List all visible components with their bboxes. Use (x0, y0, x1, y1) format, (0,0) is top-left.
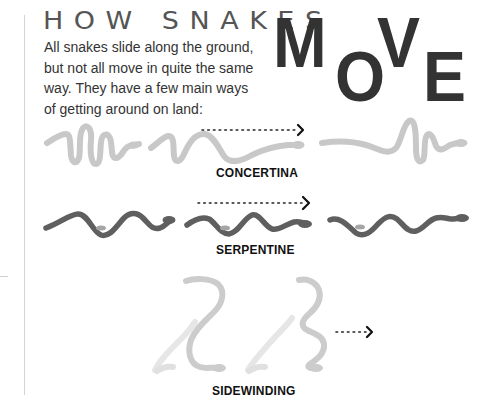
sidewinding-snake-2-head-icon (309, 364, 323, 372)
serpentine-snake-2-icon (187, 215, 307, 234)
serpentine-snake-3-icon (330, 217, 462, 235)
sidewinding-snake-2-icon (299, 279, 324, 368)
serpentine-snake-3-head-icon (455, 214, 469, 222)
serpentine-ground-mark-icon (355, 225, 365, 230)
serpentine-snake-1-head-icon (163, 216, 176, 224)
serpentine-dotted-arrow-icon (198, 197, 309, 209)
concertina-dotted-arrow-icon (202, 125, 303, 135)
serpentine-illustration (46, 214, 469, 236)
concertina-snake-2-icon (151, 134, 300, 161)
sidewinding-dotted-arrow-icon (336, 327, 372, 337)
concertina-snake-3-head-icon (455, 139, 468, 147)
serpentine-snake-2-head-icon (298, 220, 312, 228)
serpentine-ground-mark-icon (96, 226, 106, 231)
concertina-snake-3-icon (322, 121, 462, 162)
serpentine-snake-1-icon (46, 214, 172, 236)
snake-illustrations (0, 0, 491, 395)
concertina-illustration (47, 121, 468, 164)
label-serpentine: SERPENTINE (216, 243, 295, 257)
sidewinding-snake-1-head-icon (212, 364, 226, 372)
sidewinding-track-2-icon (248, 318, 292, 370)
serpentine-ground-mark-icon (220, 226, 230, 231)
label-concertina: CONCERTINA (216, 166, 298, 180)
concertina-snake-1-icon (47, 126, 139, 164)
concertina-snake-2-head-icon (292, 141, 305, 149)
sidewinding-illustration (155, 279, 324, 372)
label-sidewinding: SIDEWINDING (212, 384, 296, 395)
concertina-snake-1-head-icon (128, 142, 140, 149)
